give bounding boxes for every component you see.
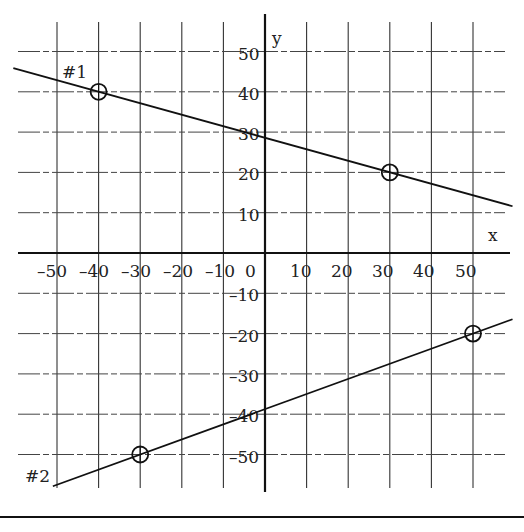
y-tick-label: 50 bbox=[238, 44, 260, 64]
x-tick-label: –40 bbox=[79, 261, 109, 281]
y-axis-label: y bbox=[271, 28, 282, 48]
x-tick-label: –30 bbox=[121, 261, 151, 281]
x-tick-label: 30 bbox=[372, 261, 394, 281]
series-line-1 bbox=[13, 68, 512, 206]
line-chart: –50–40–30–20–10010203040505040302010–10–… bbox=[0, 0, 524, 532]
y-tick-label: –50 bbox=[229, 447, 259, 467]
x-tick-label: 20 bbox=[331, 261, 353, 281]
y-tick-label: –20 bbox=[229, 326, 259, 346]
x-tick-label: –10 bbox=[205, 261, 235, 281]
x-tick-label: 50 bbox=[455, 261, 477, 281]
series-line-2 bbox=[53, 319, 513, 486]
series-label-2: #2 bbox=[25, 466, 50, 486]
chart-container: –50–40–30–20–10010203040505040302010–10–… bbox=[0, 0, 524, 532]
x-axis-label: x bbox=[488, 225, 498, 245]
x-tick-label: 0 bbox=[245, 261, 256, 281]
y-tick-label: 10 bbox=[238, 205, 260, 225]
x-tick-label: 10 bbox=[290, 261, 312, 281]
y-tick-label: –30 bbox=[229, 366, 259, 386]
y-tick-label: –10 bbox=[229, 285, 259, 305]
y-tick-label: 20 bbox=[238, 164, 260, 184]
x-tick-label: –20 bbox=[163, 261, 193, 281]
x-tick-label: –50 bbox=[37, 261, 67, 281]
series-label-1: #1 bbox=[62, 62, 87, 82]
y-tick-label: 40 bbox=[238, 84, 260, 104]
x-tick-label: 40 bbox=[413, 261, 435, 281]
